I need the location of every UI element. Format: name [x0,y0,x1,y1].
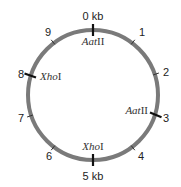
site-label-xhoi-5: XhoI [81,140,104,152]
pos-label-1: 1 [139,26,145,38]
pos-label-5: 5 kb [83,170,104,182]
pos-label-3: 3 [163,112,169,124]
pos-label-7: 7 [18,112,24,124]
pos-label-2: 2 [163,66,169,78]
pos-label-0: 0 kb [83,10,104,22]
site-label-xhoi-8: XhoI [39,70,62,82]
site-label-aatii-3: AatII [124,104,148,116]
pos-label-4: 4 [138,150,144,162]
pos-label-6: 6 [46,150,52,162]
pos-label-9: 9 [45,26,51,38]
restriction-map: 0 kb 1 2 3 4 5 kb 6 7 8 9 AatII AatII Xh… [0,0,181,187]
minor-ticks [27,40,159,150]
site-label-aatii-0: AatII [81,35,105,47]
pos-label-8: 8 [18,68,24,80]
